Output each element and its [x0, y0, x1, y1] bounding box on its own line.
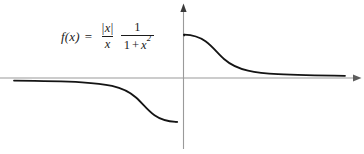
denominator-plus: + [130, 38, 141, 52]
second-fraction-numerator: 1 [131, 21, 143, 35]
y-axis-arrow [180, 4, 186, 13]
curve-positive-branch [184, 35, 345, 76]
formula-equals-sign: = [85, 30, 92, 43]
function-formula: f(x) = |x| x 1 1+x2 [61, 21, 154, 52]
formula-second-fraction: 1 1+x2 [121, 21, 154, 52]
first-fraction-denominator: x [102, 36, 114, 51]
second-fraction-denominator: 1+x2 [121, 35, 154, 52]
figure-container: f(x) = |x| x 1 1+x2 [0, 0, 364, 154]
formula-first-fraction: |x| x [98, 22, 117, 51]
first-fraction-numerator: |x| [98, 22, 117, 36]
abs-bar-right: | [110, 21, 114, 35]
denominator-exponent: 2 [147, 33, 151, 43]
x-axis-arrow [353, 75, 362, 82]
curve-negative-branch [14, 81, 176, 122]
formula-function-name: f(x) [61, 30, 80, 43]
graph-plot [0, 0, 364, 154]
denominator-variable: x [141, 38, 147, 52]
